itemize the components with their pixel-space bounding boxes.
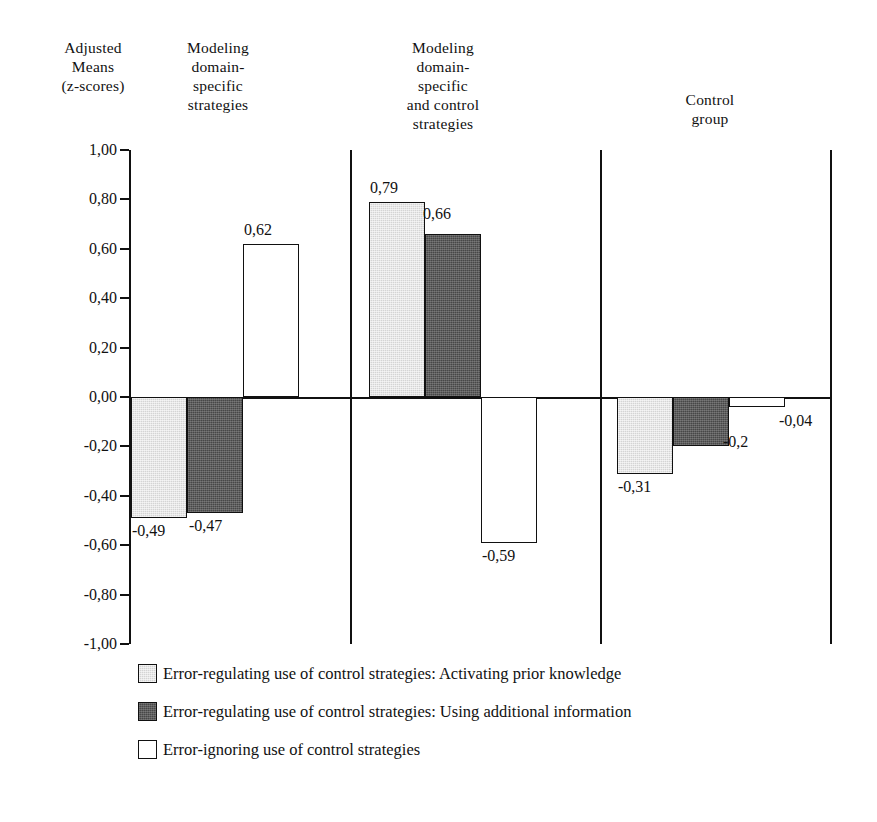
y-tick-label: -0,20 bbox=[84, 438, 117, 454]
y-tick-mark bbox=[120, 396, 129, 398]
y-tick-label: 1,00 bbox=[89, 142, 117, 158]
legend-label: Error-regulating use of control strategi… bbox=[163, 664, 621, 683]
bar-value-label: 0,62 bbox=[244, 222, 272, 238]
y-tick-label: 0,80 bbox=[89, 191, 117, 207]
y-tick-mark bbox=[120, 495, 129, 497]
bar bbox=[673, 397, 729, 446]
bar-value-label: -0,47 bbox=[189, 518, 222, 534]
legend-label: Error-ignoring use of control strategies bbox=[163, 740, 420, 759]
y-tick-mark bbox=[120, 643, 129, 645]
y-tick-mark bbox=[120, 297, 129, 299]
plot-area: 1,000,800,600,400,200,00-0,20-0,40-0,60-… bbox=[129, 150, 832, 644]
group-separator-line bbox=[600, 150, 602, 644]
bar-value-label: -0,49 bbox=[132, 523, 165, 539]
bar bbox=[369, 202, 425, 397]
y-tick-mark bbox=[120, 248, 129, 250]
bar-value-label: -0,59 bbox=[482, 548, 515, 564]
y-tick-mark bbox=[120, 149, 129, 151]
y-tick-label: 0,40 bbox=[89, 290, 117, 306]
y-tick-label: -1,00 bbox=[84, 636, 117, 652]
bar bbox=[425, 234, 481, 397]
y-tick-label: -0,40 bbox=[84, 488, 117, 504]
bar-value-label: 0,79 bbox=[370, 180, 398, 196]
bar-value-label: 0,66 bbox=[423, 206, 451, 222]
group-header-modeling-domain-specific-and-control: Modeling domain- specific and control st… bbox=[368, 38, 518, 133]
legend-item: Error-regulating use of control strategi… bbox=[138, 692, 838, 730]
bar bbox=[729, 397, 785, 407]
y-tick-mark bbox=[120, 198, 129, 200]
group-separator-line bbox=[350, 150, 352, 644]
y-tick-label: -0,80 bbox=[84, 587, 117, 603]
y-tick-mark bbox=[120, 544, 129, 546]
bar-chart: Adjusted Means (z-scores) Modeling domai… bbox=[0, 0, 877, 822]
y-tick-label: 0,00 bbox=[89, 389, 117, 405]
bar bbox=[617, 397, 673, 474]
bar bbox=[481, 397, 537, 543]
group-separator-line bbox=[830, 150, 832, 644]
y-tick-mark bbox=[120, 347, 129, 349]
legend: Error-regulating use of control strategi… bbox=[138, 654, 838, 768]
group-header-control-group: Control group bbox=[640, 90, 780, 128]
bar bbox=[187, 397, 243, 513]
legend-swatch-icon bbox=[138, 702, 157, 721]
y-tick-mark bbox=[120, 594, 129, 596]
bar-value-label: -0,31 bbox=[618, 479, 651, 495]
legend-item: Error-ignoring use of control strategies bbox=[138, 730, 838, 768]
legend-swatch-icon bbox=[138, 740, 157, 759]
y-tick-label: -0,60 bbox=[84, 537, 117, 553]
bar-value-label: -0,04 bbox=[779, 413, 812, 429]
y-axis-title: Adjusted Means (z-scores) bbox=[38, 38, 148, 95]
bar-value-label: -0,2 bbox=[723, 434, 748, 450]
legend-label: Error-regulating use of control strategi… bbox=[163, 702, 631, 721]
bar bbox=[131, 397, 187, 518]
group-header-modeling-domain-specific: Modeling domain- specific strategies bbox=[148, 38, 288, 114]
y-tick-label-group: 1,000,800,600,400,200,00-0,20-0,40-0,60-… bbox=[37, 150, 117, 644]
y-tick-label: 0,60 bbox=[89, 241, 117, 257]
y-tick-mark bbox=[120, 445, 129, 447]
legend-swatch-icon bbox=[138, 664, 157, 683]
y-tick-label: 0,20 bbox=[89, 340, 117, 356]
bar bbox=[243, 244, 299, 397]
legend-item: Error-regulating use of control strategi… bbox=[138, 654, 838, 692]
